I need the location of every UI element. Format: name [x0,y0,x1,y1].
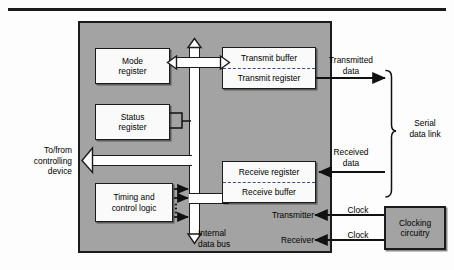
internal-bus-line1: Internal [198,228,226,238]
clock-rx-text: Clock [348,230,369,240]
internal-data-bus-host-stub [92,155,192,166]
transmit-buffer-label: Transmit buffer [241,53,297,63]
serial-data-link-label: Serial data link [397,118,453,139]
transmitter-text: Transmitter [272,210,314,220]
received-line2: data [343,158,359,168]
receiver-text: Receiver [281,235,314,245]
serial-link-line2: data link [409,129,440,139]
internal-data-bus-vertical [189,48,200,234]
clocking-circuitry-box[interactable]: Clocking circuitry [384,206,446,250]
clocking-line2: circuitry [401,228,430,238]
host-label-line2: controlling [34,156,72,166]
receive-register-label: Receive register [239,167,300,177]
transmit-divider [223,68,315,69]
timing-line1: Timing and [113,192,154,202]
mode-register-box[interactable]: Mode register [95,48,170,84]
transmitted-line2: data [343,66,359,76]
clock-transmitter-label: Clock [337,205,379,216]
status-register-line1: Status [121,112,145,122]
host-device-label: To/from controlling device [0,145,78,177]
serial-data-link-brace [386,71,396,198]
transmitted-data-label: Transmitted data [316,55,386,76]
figure-canvas: Mode register Status register Timing and… [0,0,454,270]
clock-receiver-label: Clock [337,230,379,241]
timing-line2: control logic [112,203,157,213]
mode-register-line2: register [119,66,147,76]
internal-data-bus-horizontal [176,57,221,68]
transmit-register-box[interactable]: Transmit buffer Transmit register [222,47,316,89]
receive-divider [223,182,315,183]
top-rule [8,8,446,11]
transmitted-line1: Transmitted [329,55,373,65]
status-register-line2: register [119,122,147,132]
mode-register-line1: Mode [122,56,143,66]
internal-bus-line2: data bus [198,239,230,249]
host-label-line3: device [48,166,72,176]
clock-tx-text: Clock [348,205,369,215]
receiver-label: Receiver [250,235,314,246]
received-data-label: Received data [320,147,382,168]
serial-link-line1: Serial [414,118,435,128]
status-register-box[interactable]: Status register [95,104,170,140]
host-label-line1: To/from [44,145,72,155]
timing-control-logic-box[interactable]: Timing and control logic [95,183,173,222]
received-line1: Received [334,147,369,157]
receive-buffer-label: Receive buffer [242,187,296,197]
clocking-line1: Clocking [399,218,431,228]
transmit-register-label: Transmit register [238,73,301,83]
receive-register-box[interactable]: Receive register Receive buffer [222,161,316,203]
transmitter-label: Transmitter [250,210,314,221]
